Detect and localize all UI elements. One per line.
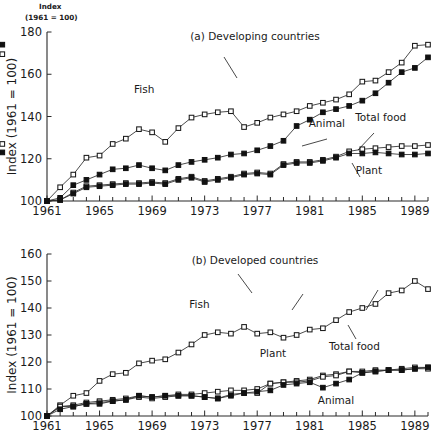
series-line-fish xyxy=(47,45,428,201)
data-point xyxy=(373,78,378,83)
data-point xyxy=(124,371,129,376)
leader-fish-b xyxy=(238,274,252,293)
data-point xyxy=(97,153,102,158)
data-point xyxy=(202,158,207,163)
annotation-animal: Animal xyxy=(309,117,345,129)
data-point xyxy=(399,152,404,157)
data-point xyxy=(426,287,431,292)
annotation-animal: Animal xyxy=(318,394,354,406)
data-point xyxy=(97,379,102,384)
data-point xyxy=(71,191,76,196)
x-tick-label: 1981 xyxy=(295,419,324,433)
data-point xyxy=(281,138,286,143)
data-point xyxy=(163,168,168,173)
data-point xyxy=(45,199,50,204)
data-point xyxy=(281,163,286,168)
data-point xyxy=(307,104,312,109)
data-point xyxy=(386,368,391,373)
data-point xyxy=(124,398,129,403)
annotation-plant: Plant xyxy=(260,347,286,359)
data-point xyxy=(347,310,352,315)
data-point xyxy=(294,333,299,338)
data-point xyxy=(150,395,155,400)
data-point xyxy=(386,291,391,296)
series-line-plant xyxy=(47,152,428,201)
data-point xyxy=(413,144,418,149)
panel-title: (a) Developing countries xyxy=(190,30,320,42)
data-point xyxy=(215,330,220,335)
data-point xyxy=(360,371,365,376)
data-point xyxy=(97,402,102,407)
leader-plant-b xyxy=(292,294,303,310)
data-point xyxy=(334,155,339,160)
data-point xyxy=(71,172,76,177)
annotation-fish: Fish xyxy=(189,298,209,310)
data-point xyxy=(84,155,89,160)
x-tick-label: 1977 xyxy=(243,204,272,218)
data-point xyxy=(268,172,273,177)
data-point xyxy=(84,391,89,396)
data-point xyxy=(281,383,286,388)
data-point xyxy=(255,389,260,394)
x-tick-label: 1969 xyxy=(137,204,166,218)
leader-animal-b xyxy=(348,325,356,339)
data-point xyxy=(0,52,5,57)
series-line-animal xyxy=(47,367,428,416)
data-point xyxy=(426,151,431,156)
data-point xyxy=(360,98,365,103)
data-point xyxy=(150,358,155,363)
data-point xyxy=(373,91,378,96)
data-point xyxy=(334,381,339,386)
y-tick-label: 140 xyxy=(20,110,42,124)
leader-total-food-b xyxy=(366,290,378,310)
x-tick-label: 1961 xyxy=(32,419,61,433)
x-tick-label: 1989 xyxy=(400,419,429,433)
y-tick-label: 120 xyxy=(20,152,42,166)
data-point xyxy=(268,330,273,335)
x-tick-label: 1973 xyxy=(190,204,219,218)
data-point xyxy=(242,325,247,330)
y-axis-title: Index (1961 = 100) xyxy=(5,276,19,393)
annotation-total-food: Total food xyxy=(328,340,380,352)
data-point xyxy=(426,365,431,370)
x-tick-label: 1969 xyxy=(137,419,166,433)
data-point xyxy=(124,136,129,141)
y-tick-label: 130 xyxy=(20,328,42,342)
data-point xyxy=(321,110,326,115)
leader-animal xyxy=(302,139,327,146)
data-point xyxy=(334,97,339,102)
data-point xyxy=(189,342,194,347)
data-point xyxy=(163,357,168,362)
data-point xyxy=(413,66,418,71)
data-point xyxy=(58,407,63,412)
data-point xyxy=(215,155,220,160)
leader-fish xyxy=(224,57,237,78)
data-point xyxy=(202,180,207,185)
y-tick-label: 150 xyxy=(20,274,42,288)
data-point xyxy=(386,80,391,85)
data-point xyxy=(413,279,418,284)
data-point xyxy=(137,163,142,168)
data-point xyxy=(321,100,326,105)
x-tick-label: 1985 xyxy=(348,419,377,433)
data-point xyxy=(426,42,431,47)
data-point xyxy=(110,167,115,172)
data-point xyxy=(347,92,352,97)
x-tick-label: 1989 xyxy=(400,204,429,218)
data-point xyxy=(215,389,220,394)
data-point xyxy=(137,182,142,187)
axis-lines xyxy=(47,254,428,416)
y-tick-label: 160 xyxy=(20,67,42,81)
data-point xyxy=(268,381,273,386)
series-markers-plant xyxy=(45,366,431,418)
data-point xyxy=(124,166,129,171)
data-point xyxy=(71,404,76,409)
y-tick-label: 140 xyxy=(20,301,42,315)
x-tick-label: 1977 xyxy=(243,419,272,433)
y-tick-label: 160 xyxy=(20,247,42,261)
series-markers-total-food xyxy=(45,365,431,418)
data-point xyxy=(176,350,181,355)
data-point xyxy=(268,115,273,120)
data-point xyxy=(229,109,234,114)
data-point xyxy=(386,145,391,150)
